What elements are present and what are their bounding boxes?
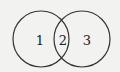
region-3-label: 3 (83, 33, 91, 48)
region-1-label: 1 (36, 33, 44, 48)
venn-svg: 1 2 3 (0, 0, 120, 72)
venn-diagram: 1 2 3 (0, 0, 120, 72)
region-2-label: 2 (59, 33, 67, 48)
